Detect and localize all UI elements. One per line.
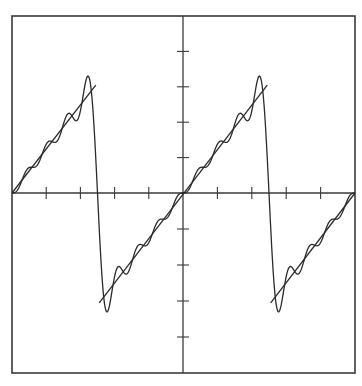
ideal-segment [271, 193, 355, 303]
ideal-segment [12, 85, 96, 193]
sawtooth-fourier-chart [0, 0, 362, 386]
